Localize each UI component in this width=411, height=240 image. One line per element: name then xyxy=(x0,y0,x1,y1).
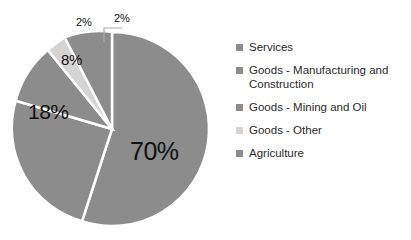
legend-swatch-icon xyxy=(236,104,243,111)
legend-swatch-icon xyxy=(236,44,243,51)
legend-item-services[interactable]: Services xyxy=(236,40,411,54)
data-label-goods-other: 2% xyxy=(76,17,92,28)
pie-chart: 70% 18% 8% 2% 2% Services Goods - Manufa… xyxy=(0,0,411,240)
data-label-services: 70% xyxy=(130,139,179,164)
chart-legend: Services Goods - Manufacturing and Const… xyxy=(236,40,411,169)
pie-slices xyxy=(12,31,209,226)
legend-label: Services xyxy=(249,40,293,54)
pie-plot-area: 70% 18% 8% 2% 2% xyxy=(0,0,230,240)
legend-item-agriculture[interactable]: Agriculture xyxy=(236,146,411,160)
legend-item-goods-other[interactable]: Goods - Other xyxy=(236,123,411,137)
data-label-agriculture: 2% xyxy=(114,13,130,24)
legend-item-goods-mining-and-oil[interactable]: Goods - Mining and Oil xyxy=(236,100,411,114)
legend-label: Goods - Manufacturing and Construction xyxy=(249,63,407,91)
legend-swatch-icon xyxy=(236,67,243,74)
legend-item-goods-manufacturing-and-construction[interactable]: Goods - Manufacturing and Construction xyxy=(236,63,411,91)
legend-label: Goods - Other xyxy=(249,123,322,137)
legend-swatch-icon xyxy=(236,150,243,157)
legend-label: Goods - Mining and Oil xyxy=(249,100,367,114)
legend-swatch-icon xyxy=(236,127,243,134)
data-label-mining-oil: 8% xyxy=(61,52,82,67)
legend-label: Agriculture xyxy=(249,146,304,160)
data-label-manufacturing-construction: 18% xyxy=(28,101,69,122)
